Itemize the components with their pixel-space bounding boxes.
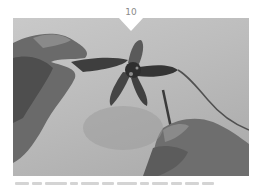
caption-word bbox=[81, 182, 99, 185]
step-number: 10 bbox=[118, 7, 144, 17]
caption-word bbox=[32, 182, 42, 185]
caption-word bbox=[171, 182, 182, 185]
crochet-hands-illustration bbox=[13, 18, 249, 176]
caption-text-line bbox=[15, 181, 245, 186]
caption-word bbox=[117, 182, 137, 185]
step-photo bbox=[13, 18, 249, 176]
step-marker-notch bbox=[118, 17, 144, 31]
caption-word bbox=[15, 182, 29, 185]
caption-word bbox=[185, 182, 199, 185]
caption-word bbox=[45, 182, 67, 185]
caption-word bbox=[102, 182, 114, 185]
caption-word bbox=[140, 182, 149, 185]
caption-word bbox=[70, 182, 78, 185]
caption-word bbox=[152, 182, 168, 185]
caption-word bbox=[202, 182, 214, 185]
